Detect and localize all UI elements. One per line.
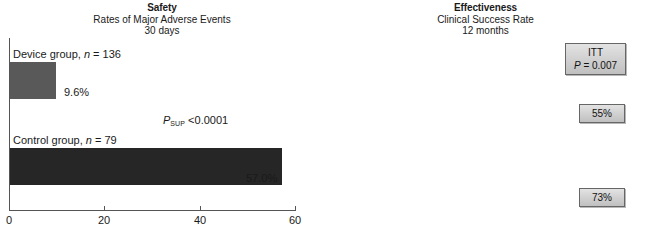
safety-p-value-annotation: PSUP <0.0001 xyxy=(163,114,228,127)
safety-ticklabel-60: 60 xyxy=(289,214,301,226)
itt-callout-p-symbol: P xyxy=(574,60,581,71)
effectiveness-subtitle2: 12 months xyxy=(324,25,647,37)
control-percent-callout-box: 73% xyxy=(579,188,625,207)
safety-device-bar xyxy=(10,62,56,99)
effectiveness-title-block: Effectiveness Clinical Success Rate 12 m… xyxy=(324,2,647,37)
safety-subtitle2: 30 days xyxy=(0,25,324,37)
safety-p-subscript: SUP xyxy=(170,120,185,127)
device-percent-callout-box: 55% xyxy=(579,104,625,123)
safety-x-axis-line xyxy=(9,210,296,211)
safety-ticklabel-0: 0 xyxy=(6,214,12,226)
safety-device-label-post: = 136 xyxy=(90,48,121,60)
itt-callout-line2: P = 0.007 xyxy=(571,59,620,72)
safety-plot-area: 0 20 40 60 Device group, n = 136 9.6% PS… xyxy=(9,38,296,210)
safety-tick-20 xyxy=(104,206,105,211)
safety-device-group-label: Device group, n = 136 xyxy=(13,48,121,60)
safety-tick-40 xyxy=(200,206,201,211)
clinical-trial-bar-chart-figure: Safety Rates of Major Adverse Events 30 … xyxy=(0,0,647,238)
safety-control-label-post: = 79 xyxy=(92,134,117,146)
safety-control-bar xyxy=(10,148,282,185)
effectiveness-title: Effectiveness xyxy=(324,2,647,14)
safety-control-group-label: Control group, n = 79 xyxy=(13,134,117,146)
safety-device-value-label: 9.6% xyxy=(64,86,89,98)
safety-ticklabel-20: 20 xyxy=(98,214,110,226)
safety-control-label-pre: Control group, xyxy=(13,134,86,146)
safety-panel: Safety Rates of Major Adverse Events 30 … xyxy=(0,0,324,238)
safety-title-block: Safety Rates of Major Adverse Events 30 … xyxy=(0,2,324,37)
safety-tick-0 xyxy=(9,206,10,211)
effectiveness-subtitle: Clinical Success Rate xyxy=(324,14,647,26)
itt-callout-line1: ITT xyxy=(571,46,620,59)
safety-device-label-pre: Device group, xyxy=(13,48,84,60)
safety-ticklabel-40: 40 xyxy=(194,214,206,226)
safety-control-value-label: 57.0% xyxy=(246,172,277,184)
safety-subtitle: Rates of Major Adverse Events xyxy=(0,14,324,26)
itt-callout-p-text: = 0.007 xyxy=(581,60,617,71)
safety-tick-60 xyxy=(295,206,296,211)
itt-callout-box: ITT P = 0.007 xyxy=(565,43,626,75)
safety-p-text: <0.0001 xyxy=(185,114,228,126)
safety-title: Safety xyxy=(0,2,324,14)
